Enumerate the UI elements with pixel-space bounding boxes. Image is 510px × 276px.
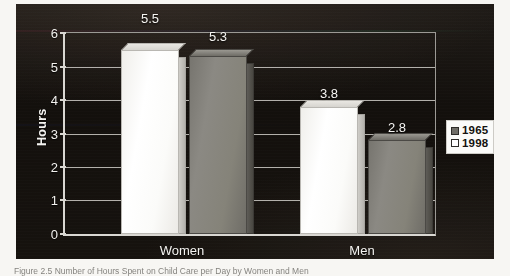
bar-side: [179, 57, 186, 234]
bar-side: [247, 63, 254, 234]
bar-face: [300, 107, 358, 234]
y-tick-label-6: 6: [51, 27, 58, 40]
bar-side: [358, 114, 365, 234]
y-axis-label: Hours: [35, 108, 49, 146]
bar-side: [426, 147, 433, 234]
y-tick-label-2: 2: [51, 161, 58, 174]
y-tick-label-0: 0: [51, 228, 58, 241]
legend-label: 1965: [462, 125, 488, 137]
plot-area: 6 5 4 3 2 1 0: [63, 32, 436, 236]
bar-label-women-1965: 5.3: [209, 30, 227, 43]
figure-caption: Figure 2.5 Number of Hours Spent on Chil…: [14, 266, 444, 276]
legend-label: 1998: [462, 138, 488, 150]
bar-label-women-1998: 5.5: [141, 12, 159, 25]
bar-label-men-1965: 2.8: [388, 121, 406, 134]
x-tick-label-women: Women: [160, 244, 205, 257]
legend-swatch-filled-icon: [451, 127, 459, 135]
bar-men-1965[interactable]: [368, 140, 426, 234]
bar-men-1998[interactable]: [300, 107, 358, 234]
y-tick-label-3: 3: [51, 127, 58, 140]
figure-root: Hours 6 5 4 3: [0, 0, 510, 276]
legend: 1965 1998: [446, 120, 494, 154]
bar-top: [189, 49, 254, 56]
legend-swatch-hollow-icon: [451, 139, 459, 147]
bar-women-1965[interactable]: [189, 56, 247, 234]
legend-item-1965[interactable]: 1965: [451, 125, 488, 137]
bar-women-1998[interactable]: [121, 50, 179, 234]
y-tick-label-1: 1: [51, 194, 58, 207]
bar-face: [121, 50, 179, 234]
bar-top: [121, 43, 186, 50]
y-tick-label-5: 5: [51, 60, 58, 73]
bar-face: [189, 56, 247, 234]
bar-face: [368, 140, 426, 234]
legend-item-1998[interactable]: 1998: [451, 138, 488, 150]
x-tick-label-men: Men: [349, 244, 374, 257]
y-tick-label-4: 4: [51, 93, 58, 106]
chart-plate: Hours 6 5 4 3: [16, 4, 494, 259]
bar-label-men-1998: 3.8: [320, 87, 338, 100]
